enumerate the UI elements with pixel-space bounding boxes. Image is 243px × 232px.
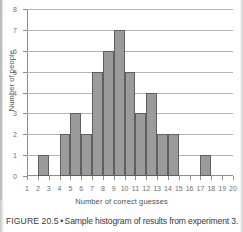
x-axis-tick: 16 bbox=[190, 176, 191, 180]
x-axis-tick-label: 18 bbox=[207, 185, 215, 192]
y-axis-tick-label: 8 bbox=[13, 6, 17, 13]
histogram-bar bbox=[38, 155, 49, 176]
x-axis-tick: 13 bbox=[157, 176, 158, 180]
x-axis-tick: 14 bbox=[168, 176, 169, 180]
x-axis-tick: 2 bbox=[38, 176, 39, 180]
x-axis-tick-label: 17 bbox=[197, 185, 205, 192]
y-axis-tick: 6 bbox=[23, 51, 27, 52]
x-axis-tick-label: 20 bbox=[229, 185, 237, 192]
x-axis-tick: 1 bbox=[27, 176, 28, 180]
x-axis-tick-label: 15 bbox=[175, 185, 183, 192]
x-axis-tick: 20 bbox=[233, 176, 234, 180]
x-axis-tick: 12 bbox=[146, 176, 147, 180]
x-axis-title: Number of correct guesses bbox=[0, 197, 243, 206]
histogram-chart: 012345678 123456789101112131415161718192… bbox=[27, 9, 233, 176]
y-axis-tick: 3 bbox=[23, 113, 27, 114]
histogram-bar bbox=[103, 51, 114, 176]
x-axis-tick-label: 19 bbox=[218, 185, 226, 192]
histogram-bar bbox=[60, 134, 71, 176]
y-axis-tick-label: 1 bbox=[13, 152, 17, 159]
histogram-bar bbox=[200, 155, 211, 176]
y-axis-tick: 4 bbox=[23, 93, 27, 94]
gridline bbox=[27, 30, 233, 31]
x-axis-tick-label: 12 bbox=[142, 185, 150, 192]
histogram-bar bbox=[70, 113, 81, 176]
y-axis-tick: 5 bbox=[23, 72, 27, 73]
y-axis-tick: 8 bbox=[23, 9, 27, 10]
x-axis-tick-label: 6 bbox=[79, 185, 83, 192]
y-axis-title: Number of people bbox=[7, 50, 19, 111]
x-axis-tick: 15 bbox=[179, 176, 180, 180]
x-axis-tick-label: 10 bbox=[121, 185, 129, 192]
x-axis-tick-label: 8 bbox=[101, 185, 105, 192]
x-axis-tick-label: 4 bbox=[58, 185, 62, 192]
y-axis-tick-label: 5 bbox=[13, 68, 17, 75]
x-axis-tick-label: 2 bbox=[36, 185, 40, 192]
histogram-bar bbox=[168, 134, 179, 176]
x-axis-tick: 8 bbox=[103, 176, 104, 180]
x-axis-tick: 17 bbox=[200, 176, 201, 180]
x-axis-tick-label: 7 bbox=[90, 185, 94, 192]
y-axis-tick-label: 6 bbox=[13, 47, 17, 54]
x-axis-tick-label: 11 bbox=[132, 185, 139, 192]
x-axis-tick-label: 16 bbox=[186, 185, 194, 192]
histogram-bar bbox=[157, 134, 168, 176]
y-axis-tick: 1 bbox=[23, 155, 27, 156]
y-axis-tick: 2 bbox=[23, 134, 27, 135]
x-axis-tick: 6 bbox=[81, 176, 82, 180]
x-axis-tick: 19 bbox=[222, 176, 223, 180]
x-axis-tick: 5 bbox=[70, 176, 71, 180]
x-axis-tick: 11 bbox=[135, 176, 136, 180]
x-axis-tick: 3 bbox=[49, 176, 50, 180]
y-axis-tick-label: 0 bbox=[13, 173, 17, 180]
x-axis-tick-label: 3 bbox=[47, 185, 51, 192]
x-axis-tick-label: 1 bbox=[25, 185, 29, 192]
y-axis-tick-label: 3 bbox=[13, 110, 17, 117]
y-axis-tick-label: 4 bbox=[13, 89, 17, 96]
gridline bbox=[27, 9, 233, 10]
figure-caption: FIGURE 20.5•Sample histogram of results … bbox=[6, 216, 240, 226]
y-axis-tick: 7 bbox=[23, 30, 27, 31]
histogram-bar bbox=[125, 72, 136, 176]
histogram-bar bbox=[135, 113, 146, 176]
x-axis-tick: 18 bbox=[211, 176, 212, 180]
histogram-bar bbox=[146, 93, 157, 177]
x-axis-tick-label: 14 bbox=[164, 185, 172, 192]
figure-number: FIGURE 20.5 bbox=[6, 216, 59, 226]
figure-container: Number of people 012345678 1234567891011… bbox=[0, 0, 243, 232]
gridline bbox=[27, 51, 233, 52]
x-axis-tick-label: 13 bbox=[153, 185, 161, 192]
histogram-bar bbox=[92, 72, 103, 176]
x-axis-tick-label: 5 bbox=[68, 185, 72, 192]
y-axis-tick-label: 7 bbox=[13, 26, 17, 33]
y-axis-tick-label: 2 bbox=[13, 131, 17, 138]
histogram-bar bbox=[114, 30, 125, 176]
x-axis-tick: 10 bbox=[125, 176, 126, 180]
x-axis-tick: 4 bbox=[60, 176, 61, 180]
x-axis-tick: 7 bbox=[92, 176, 93, 180]
histogram-bar bbox=[81, 134, 92, 176]
x-axis-tick-label: 9 bbox=[112, 185, 116, 192]
x-axis-tick: 9 bbox=[114, 176, 115, 180]
figure-caption-text: Sample histogram of results from experim… bbox=[65, 216, 239, 226]
